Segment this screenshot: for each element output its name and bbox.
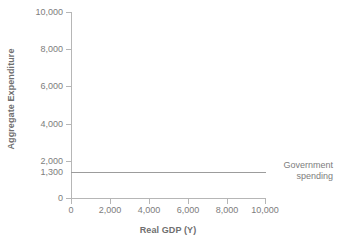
chart-figure: Aggregate Expenditure Real GDP (Y) 10,00… — [0, 0, 337, 246]
y-tick-label-10000: 10,000 — [35, 8, 63, 17]
y-axis-title-text: Aggregate Expenditure — [6, 48, 16, 149]
y-tick-2000 — [66, 161, 71, 162]
y-tick-6000 — [66, 86, 71, 87]
x-tick-label-6000: 6,000 — [177, 206, 200, 215]
x-tick-2000 — [110, 199, 111, 204]
y-tick-10000 — [66, 12, 71, 13]
x-axis-line — [71, 198, 266, 199]
y-axis-line — [71, 12, 72, 199]
x-tick-10000 — [265, 199, 266, 204]
y-axis-title: Aggregate Expenditure — [0, 0, 22, 198]
x-tick-6000 — [188, 199, 189, 204]
government-spending-annotation: Government spending — [257, 160, 333, 182]
y-tick-label-4000: 4,000 — [40, 120, 63, 129]
x-tick-label-4000: 4,000 — [138, 206, 161, 215]
y-tick-4000 — [66, 124, 71, 125]
y-tick-label-2000: 2,000 — [40, 157, 63, 166]
government-spending-line — [71, 172, 266, 173]
y-tick-label-6000: 6,000 — [40, 82, 63, 91]
x-tick-label-10000: 10,000 — [251, 206, 279, 215]
x-tick-label-8000: 8,000 — [216, 206, 239, 215]
y-tick-label-8000: 8,000 — [40, 45, 63, 54]
y-tick-8000 — [66, 49, 71, 50]
government-spending-annotation-line2: spending — [257, 171, 333, 182]
x-tick-0 — [71, 199, 72, 204]
x-tick-label-0: 0 — [68, 206, 73, 215]
x-tick-label-2000: 2,000 — [99, 206, 122, 215]
y-tick-label-1300: 1,300 — [40, 168, 63, 177]
government-spending-annotation-line1: Government — [257, 160, 333, 171]
x-axis-title: Real GDP (Y) — [71, 225, 265, 235]
x-tick-4000 — [149, 199, 150, 204]
x-tick-8000 — [227, 199, 228, 204]
y-tick-label-0: 0 — [58, 194, 63, 203]
